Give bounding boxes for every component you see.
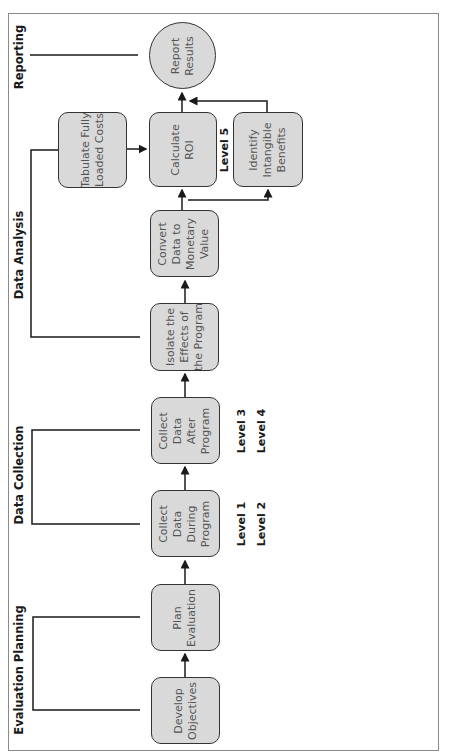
step-collect-data-after: Collect Data After Program — [151, 397, 220, 464]
phase-label-data-analysis: Data Analysis — [6, 200, 32, 310]
arrow-convert-to-intangible — [188, 190, 268, 200]
step-report-results: Report Results — [149, 22, 216, 89]
step-calculate-roi: Calculate ROI — [149, 112, 217, 187]
phase-label-data-collection: Data Collection — [6, 420, 32, 530]
data-collection-bracket — [32, 430, 140, 524]
level-label-5: Level 5 — [216, 120, 234, 180]
phase-label-evaluation-planning: Evaluation Planning — [6, 600, 32, 740]
phase-label-reporting: Reporting — [6, 22, 32, 92]
step-develop-objectives: Develop Objectives — [151, 677, 220, 744]
step-tabulate-costs: Tabulate Fully Loaded Costs — [58, 112, 127, 188]
level-label-1-2: Level 1 Level 2 — [230, 490, 274, 557]
step-isolate-effects: Isolate the Effects of the Program — [150, 303, 219, 371]
step-plan-evaluation: Plan Evaluation — [151, 584, 220, 651]
step-collect-data-during: Collect Data During Program — [151, 490, 220, 557]
step-convert-data: Convert Data to Monetary Value — [150, 210, 219, 277]
level-label-3-4: Level 3 Level 4 — [230, 397, 274, 464]
step-identify-intangible-benefits: Identify Intangible Benefits — [233, 112, 303, 187]
evaluation-planning-bracket — [33, 617, 140, 710]
arrow-intangible-to-report — [190, 101, 267, 112]
